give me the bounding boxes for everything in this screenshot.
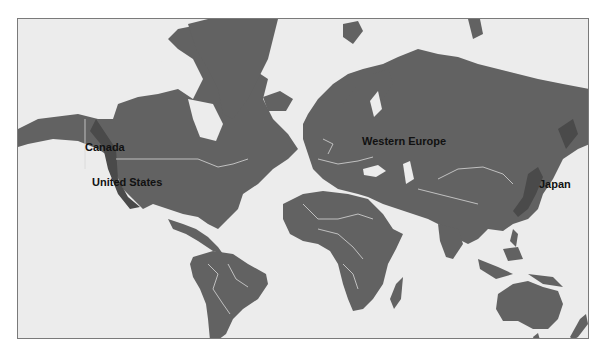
southeast-asia-islands xyxy=(478,229,563,287)
australia-landmass xyxy=(496,281,563,329)
world-map: Canada United States Western Europe Japa… xyxy=(17,18,589,339)
svalbard-landmass xyxy=(343,21,363,44)
label-canada: Canada xyxy=(85,141,125,153)
tasmania-landmass xyxy=(533,333,540,339)
new-zealand-landmass xyxy=(570,314,588,339)
africa-landmass xyxy=(283,191,403,311)
iceland-landmass xyxy=(263,91,293,111)
label-united-states: United States xyxy=(92,176,162,188)
label-western-europe: Western Europe xyxy=(362,135,446,147)
south-america-landmass xyxy=(190,251,268,339)
novaya-zemlya-landmass xyxy=(468,19,483,39)
label-japan: Japan xyxy=(539,178,571,190)
